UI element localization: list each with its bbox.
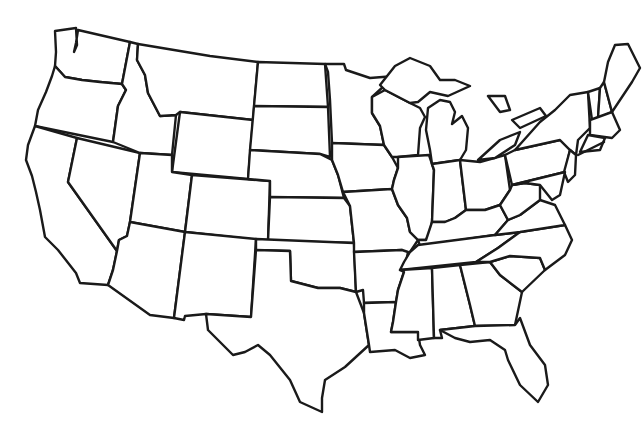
state-south-dakota[interactable]: [250, 106, 330, 157]
us-outline-map: [0, 0, 644, 421]
state-colorado[interactable]: [185, 175, 270, 241]
state-washington[interactable]: [55, 28, 130, 84]
state-montana[interactable]: [137, 44, 258, 120]
state-kansas[interactable]: [268, 197, 354, 243]
lake-huron-bay: [488, 96, 510, 112]
state-north-dakota[interactable]: [254, 62, 328, 107]
state-maine[interactable]: [604, 44, 640, 112]
us-states-svg: [0, 0, 644, 421]
state-wyoming[interactable]: [172, 112, 253, 179]
state-michigan-lower[interactable]: [426, 100, 468, 164]
state-new-mexico[interactable]: [174, 232, 256, 320]
state-florida[interactable]: [440, 318, 548, 402]
